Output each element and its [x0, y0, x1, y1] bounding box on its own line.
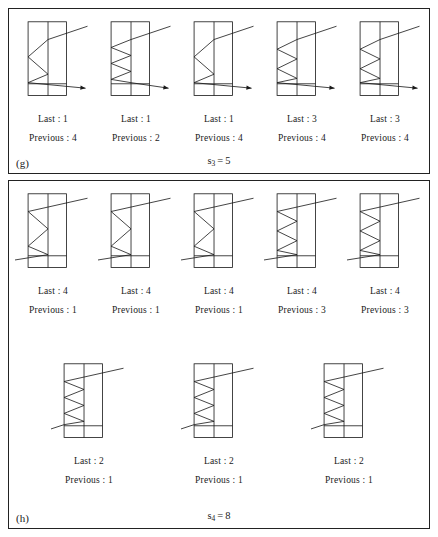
reflection-path-diagram — [347, 189, 423, 281]
box-outline — [111, 194, 149, 268]
box-outline — [324, 364, 362, 438]
last-label: Last : 4 — [287, 287, 317, 297]
figure-cell: Last : 2Previous : 1 — [24, 359, 154, 486]
previous-label: Previous : 1 — [195, 306, 243, 316]
last-label: Last : 3 — [370, 115, 400, 125]
ray-path — [51, 368, 123, 431]
summary-subscript: 4 — [212, 514, 216, 523]
panel-g: Last : 1Previous : 4Last : 1Previous : 2… — [8, 8, 430, 174]
box-outline — [194, 194, 232, 268]
last-label: Last : 1 — [121, 115, 151, 125]
ray-path — [194, 26, 253, 88]
reflection-path-diagram — [98, 17, 174, 109]
previous-label: Previous : 4 — [29, 134, 77, 144]
last-label: Last : 4 — [204, 287, 234, 297]
previous-label: Previous : 1 — [325, 476, 373, 486]
figure-row: Last : 2Previous : 1Last : 2Previous : 1… — [9, 359, 429, 486]
last-label: Last : 4 — [121, 287, 151, 297]
figure-cell: Last : 1Previous : 2 — [95, 17, 178, 144]
figure-cell: Last : 4Previous : 3 — [261, 189, 344, 316]
ray-path — [311, 368, 384, 431]
arrow-head-icon — [412, 86, 417, 90]
arrow-head-icon — [163, 85, 168, 89]
panel-summary-g: s3=5 — [9, 155, 429, 168]
last-label: Last : 2 — [74, 457, 104, 467]
ray-path — [264, 198, 337, 261]
figure-cell: Last : 3Previous : 4 — [261, 17, 344, 144]
ray-path — [181, 198, 254, 261]
summary-equals: = — [217, 510, 223, 521]
box-outline — [64, 364, 102, 438]
reflection-path-diagram — [181, 359, 257, 451]
summary-equals: = — [217, 155, 223, 166]
reflection-path-diagram — [181, 189, 257, 281]
last-label: Last : 4 — [370, 287, 400, 297]
figure-cell: Last : 1Previous : 4 — [178, 17, 261, 144]
previous-label: Previous : 4 — [361, 134, 409, 144]
reflection-path-diagram — [181, 17, 257, 109]
panel-summary-h: s4=8 — [9, 510, 429, 523]
previous-label: Previous : 1 — [29, 306, 77, 316]
box-outline — [277, 194, 315, 268]
box-outline — [194, 364, 232, 438]
previous-label: Previous : 4 — [195, 134, 243, 144]
previous-label: Previous : 3 — [361, 306, 409, 316]
figure-cell: Last : 2Previous : 1 — [284, 359, 414, 486]
summary-subscript: 3 — [212, 159, 216, 168]
figure-cell: Last : 1Previous : 4 — [12, 17, 95, 144]
last-label: Last : 4 — [38, 287, 68, 297]
ray-path — [347, 198, 420, 261]
summary-value: 8 — [225, 510, 230, 521]
previous-label: Previous : 1 — [195, 476, 243, 486]
summary-value: 5 — [225, 155, 230, 166]
figure-cell: Last : 4Previous : 3 — [344, 189, 427, 316]
last-label: Last : 3 — [287, 115, 317, 125]
reflection-path-diagram — [347, 17, 423, 109]
last-label: Last : 1 — [204, 115, 234, 125]
figure-cell: Last : 2Previous : 1 — [154, 359, 284, 486]
last-label: Last : 2 — [204, 457, 234, 467]
figure-row: Last : 4Previous : 1Last : 4Previous : 1… — [9, 189, 429, 316]
arrow-head-icon — [329, 86, 334, 90]
ray-path — [277, 26, 336, 88]
previous-label: Previous : 1 — [112, 306, 160, 316]
panel-h: Last : 4Previous : 1Last : 4Previous : 1… — [8, 180, 430, 529]
figure-cell: Last : 3Previous : 4 — [344, 17, 427, 144]
reflection-path-diagram — [311, 359, 387, 451]
previous-label: Previous : 3 — [278, 306, 326, 316]
ray-path — [15, 198, 88, 261]
reflection-path-diagram — [15, 17, 91, 109]
arrow-head-icon — [80, 86, 85, 90]
previous-label: Previous : 2 — [112, 134, 160, 144]
ray-path — [181, 368, 254, 431]
reflection-path-diagram — [98, 189, 174, 281]
last-label: Last : 2 — [334, 457, 364, 467]
ray-path — [360, 26, 419, 88]
previous-label: Previous : 1 — [65, 476, 113, 486]
previous-label: Previous : 4 — [278, 134, 326, 144]
reflection-path-diagram — [51, 359, 127, 451]
ray-path — [98, 198, 171, 261]
ray-path — [28, 26, 87, 88]
box-outline — [28, 194, 66, 268]
arrow-head-icon — [246, 86, 251, 90]
box-outline — [360, 194, 398, 268]
figure-cell: Last : 4Previous : 1 — [178, 189, 261, 316]
reflection-path-diagram — [264, 189, 340, 281]
figure-cell: Last : 4Previous : 1 — [95, 189, 178, 316]
reflection-path-diagram — [264, 17, 340, 109]
reflection-path-diagram — [15, 189, 91, 281]
ray-path — [111, 26, 170, 88]
figure-row: Last : 1Previous : 4Last : 1Previous : 2… — [9, 17, 429, 144]
figure-cell: Last : 4Previous : 1 — [12, 189, 95, 316]
last-label: Last : 1 — [38, 115, 68, 125]
figure-page: Last : 1Previous : 4Last : 1Previous : 2… — [0, 0, 438, 537]
